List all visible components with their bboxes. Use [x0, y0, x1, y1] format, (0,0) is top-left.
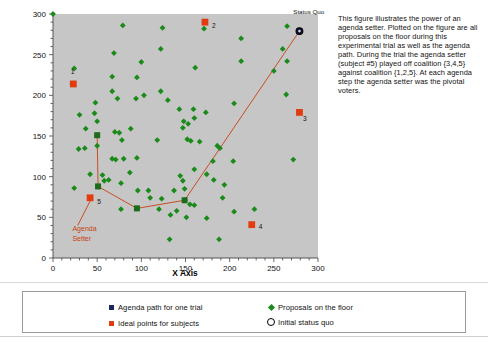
- y-axis-tick-labels: 050100150200250300: [33, 10, 47, 263]
- red-square-icon: [106, 321, 116, 326]
- figure-description-text: This figure illustrates the power of an …: [338, 14, 484, 95]
- plot-annotation-label: 5: [97, 198, 101, 205]
- plot-annotation-label: 2: [212, 22, 216, 29]
- ideal-point-marker: [202, 19, 209, 26]
- legend-label-status-quo: Initial status quo: [278, 318, 334, 327]
- y-tick-label: 0: [42, 254, 47, 263]
- scatter-plot-svg: 050100150200250300 050100150200250300 St…: [0, 0, 330, 280]
- x-tick-label: 100: [135, 264, 149, 273]
- panel-divider-top: [0, 282, 488, 283]
- figure-root: 050100150200250300 050100150200250300 St…: [0, 0, 488, 343]
- legend-label-ideal-points: Ideal points for subjects: [118, 319, 199, 328]
- navy-square-icon: [106, 305, 116, 310]
- x-tick-label: 50: [93, 264, 102, 273]
- plot-background: [53, 14, 318, 258]
- x-tick-label: 300: [311, 264, 325, 273]
- status-quo-marker: [296, 28, 303, 35]
- plot-annotation-label: Agenda: [72, 225, 96, 233]
- y-tick-label: 300: [33, 10, 47, 19]
- plot-annotation-label: 1: [71, 68, 75, 75]
- agenda-path-node: [134, 205, 140, 211]
- x-axis-ticks: [53, 258, 318, 262]
- y-tick-label: 50: [37, 213, 46, 222]
- y-tick-label: 100: [33, 173, 47, 182]
- plot-annotation-label: 3: [303, 115, 307, 122]
- ideal-point-marker: [87, 194, 94, 201]
- ideal-point-marker: [248, 221, 255, 228]
- plot-annotation-label: Status Quo: [293, 8, 325, 15]
- legend-label-proposals: Proposals on the floor: [278, 303, 353, 312]
- plot-annotation-label: Setter: [72, 235, 91, 242]
- plot-annotation-label: 4: [259, 223, 263, 230]
- legend-item-proposals: Proposals on the floor: [266, 300, 353, 314]
- x-tick-label: 200: [223, 264, 237, 273]
- agenda-path-node: [95, 183, 101, 189]
- x-tick-label: 0: [51, 264, 56, 273]
- y-tick-label: 250: [33, 51, 47, 60]
- agenda-path-node: [182, 197, 188, 203]
- y-tick-label: 200: [33, 91, 47, 100]
- x-tick-label: 250: [267, 264, 281, 273]
- legend-item-agenda-path: Agenda path for one trial: [106, 300, 202, 314]
- open-circle-icon: [266, 318, 276, 326]
- x-axis-title: X Axis: [172, 268, 198, 278]
- green-diamond-icon: [266, 305, 276, 310]
- status-quo-center: [298, 30, 301, 33]
- legend-item-status-quo: Initial status quo: [266, 315, 334, 329]
- scatter-plot-panel: 050100150200250300 050100150200250300 St…: [0, 0, 330, 280]
- legend-label-agenda-path: Agenda path for one trial: [118, 303, 202, 312]
- ideal-point-marker: [296, 109, 303, 116]
- legend-item-ideal-points: Ideal points for subjects: [106, 316, 199, 330]
- agenda-path-node: [94, 132, 100, 138]
- page-bottom-rule: [0, 336, 488, 337]
- y-axis-ticks: [49, 14, 53, 258]
- ideal-point-marker: [70, 81, 77, 88]
- legend-box: Agenda path for one trial Ideal points f…: [22, 291, 466, 333]
- y-tick-label: 150: [33, 132, 47, 141]
